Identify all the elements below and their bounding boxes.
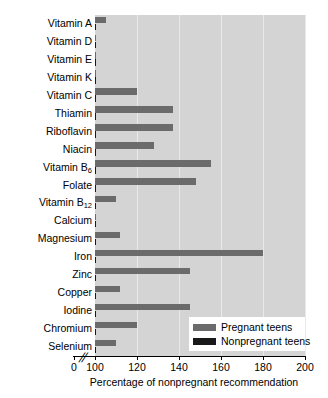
x-tick-label: 160 — [201, 361, 241, 373]
y-axis-label: Vitamin B12 — [0, 194, 92, 212]
bar-nonpregnant — [95, 329, 96, 335]
bar-row — [95, 159, 305, 176]
bar-pregnant — [95, 286, 120, 292]
bar-nonpregnant — [95, 347, 96, 353]
bar-pregnant — [95, 88, 137, 94]
bar-nonpregnant — [95, 185, 96, 191]
bar-pregnant — [95, 35, 96, 41]
bar-nonpregnant — [95, 203, 96, 209]
y-axis-label: Vitamin K — [0, 69, 92, 86]
bar-row — [95, 284, 305, 301]
bar-nonpregnant — [95, 275, 96, 281]
bar-row — [95, 33, 305, 50]
bar-pregnant — [95, 268, 190, 274]
bar-pregnant — [95, 250, 263, 256]
legend-item-nonpregnant: Nonpregnant teens — [193, 334, 301, 348]
bar-row — [95, 141, 305, 158]
y-axis-label: Copper — [0, 284, 92, 301]
bar-nonpregnant — [95, 311, 96, 317]
x-axis-title: Percentage of nonpregnant recommendation — [60, 376, 328, 388]
legend: Pregnant teens Nonpregnant teens — [189, 317, 305, 351]
bar-nonpregnant — [95, 113, 96, 119]
x-tick-160 — [221, 356, 222, 360]
bar-nonpregnant — [95, 24, 96, 30]
y-axis-label: Vitamin E — [0, 51, 92, 68]
bar-nonpregnant — [95, 95, 96, 101]
bar-nonpregnant — [95, 131, 96, 137]
bar-nonpregnant — [95, 221, 96, 227]
bar-nonpregnant — [95, 257, 96, 263]
bar-pregnant — [95, 70, 96, 76]
bar-nonpregnant — [95, 77, 96, 83]
y-axis-label: Vitamin B6 — [0, 159, 92, 177]
x-tick-label: 140 — [159, 361, 199, 373]
bar-nonpregnant — [95, 59, 96, 65]
y-axis-label: Vitamin D — [0, 33, 92, 50]
x-tick-180 — [263, 356, 264, 360]
bar-pregnant — [95, 124, 173, 130]
legend-swatch-pregnant-icon — [193, 324, 216, 331]
bar-pregnant — [95, 232, 120, 238]
x-tick-0 — [74, 356, 75, 360]
gridline-200 — [305, 15, 306, 356]
x-axis-line — [95, 356, 305, 357]
bar-row — [95, 51, 305, 68]
bar-row — [95, 177, 305, 194]
bar-pregnant — [95, 178, 196, 184]
y-axis-label: Folate — [0, 177, 92, 194]
bar-pregnant — [95, 340, 116, 346]
x-tick-label: 120 — [117, 361, 157, 373]
legend-label-pregnant: Pregnant teens — [221, 321, 292, 333]
bar-pregnant — [95, 106, 173, 112]
x-tick-label: 180 — [243, 361, 283, 373]
bar-nonpregnant — [95, 239, 96, 245]
legend-item-pregnant: Pregnant teens — [193, 320, 301, 334]
x-tick-200 — [305, 356, 306, 360]
y-axis-label: Riboflavin — [0, 123, 92, 140]
y-axis-label: Chromium — [0, 320, 92, 337]
plot-area — [95, 15, 305, 356]
bar-row — [95, 212, 305, 229]
bar-row — [95, 248, 305, 265]
y-axis-label: Zinc — [0, 266, 92, 283]
bar-pregnant — [95, 52, 96, 58]
bar-row — [95, 105, 305, 122]
bar-nonpregnant — [95, 42, 96, 48]
bar-row — [95, 230, 305, 247]
bar-pregnant — [95, 160, 211, 166]
x-tick-label: 200 — [285, 361, 325, 373]
y-axis-label: Vitamin A — [0, 15, 92, 32]
bar-nonpregnant — [95, 149, 96, 155]
y-axis-label: Thiamin — [0, 105, 92, 122]
bar-pregnant — [95, 142, 154, 148]
bar-pregnant — [95, 196, 116, 202]
bar-row — [95, 194, 305, 211]
x-tick-label-origin: 0 — [54, 361, 94, 373]
y-axis-label: Iodine — [0, 302, 92, 319]
bar-pregnant — [95, 322, 137, 328]
bar-nonpregnant — [95, 293, 96, 299]
y-axis-label: Selenium — [0, 338, 92, 355]
bar-row — [95, 15, 305, 32]
y-axis-label: Magnesium — [0, 230, 92, 247]
x-tick-120 — [137, 356, 138, 360]
bar-pregnant — [95, 214, 96, 220]
bar-row — [95, 87, 305, 104]
bar-row — [95, 266, 305, 283]
chart-figure: Vitamin AVitamin DVitamin EVitamin KVita… — [0, 0, 328, 398]
legend-swatch-nonpregnant-icon — [193, 338, 216, 345]
y-axis-label: Calcium — [0, 212, 92, 229]
x-tick-140 — [179, 356, 180, 360]
y-axis-label: Iron — [0, 248, 92, 265]
bar-row — [95, 69, 305, 86]
y-axis-label: Vitamin C — [0, 87, 92, 104]
legend-label-nonpregnant: Nonpregnant teens — [221, 335, 310, 347]
bar-pregnant — [95, 304, 190, 310]
x-tick-100 — [95, 356, 96, 360]
bar-row — [95, 123, 305, 140]
bar-nonpregnant — [95, 167, 96, 173]
y-axis-label: Niacin — [0, 141, 92, 158]
bar-pregnant — [95, 17, 106, 23]
